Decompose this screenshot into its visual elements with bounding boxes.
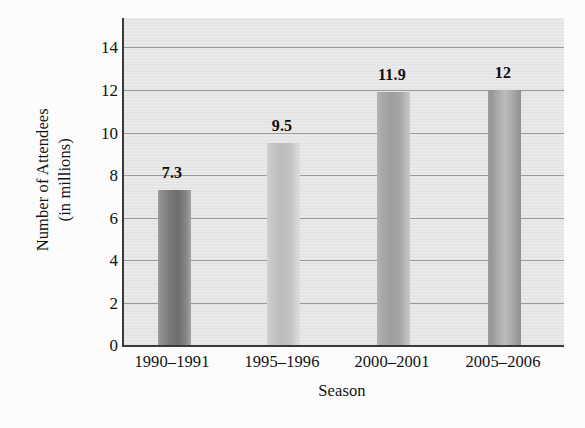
y-tick-12: 12: [84, 82, 118, 99]
x-tick-1995-1996: 1995–1996: [244, 352, 319, 372]
y-tick-10: 10: [84, 125, 118, 142]
y-axis-title-line1: Number of Attendees: [32, 108, 54, 251]
y-axis-title-line2: (in millions): [54, 108, 76, 251]
x-axis-title: Season: [122, 381, 562, 401]
data-label-2005-2006: 12: [495, 64, 511, 82]
data-label-1995-1996: 9.5: [272, 117, 293, 135]
x-tick-2005-2006: 2005–2006: [465, 352, 540, 372]
x-tick-1990-1991: 1990–1991: [134, 352, 209, 372]
y-tick-0: 0: [84, 337, 118, 354]
gridline-14: [124, 47, 564, 48]
y-tick-4: 4: [84, 252, 118, 269]
y-tick-8: 8: [84, 167, 118, 184]
bar-chart: Number of Attendees (in millions) 14 12 …: [0, 0, 585, 428]
data-label-1990-1991: 7.3: [162, 164, 183, 182]
bar-2005-2006: [488, 90, 521, 345]
y-axis-tick-labels: 14 12 10 8 6 4 2 0: [82, 0, 118, 428]
data-label-2000-2001: 11.9: [378, 66, 406, 84]
y-tick-14: 14: [84, 39, 118, 56]
bar-2000-2001: [377, 92, 410, 345]
bar-1995-1996: [267, 143, 300, 345]
x-tick-2000-2001: 2000–2001: [354, 352, 429, 372]
y-tick-2: 2: [84, 295, 118, 312]
y-tick-6: 6: [84, 210, 118, 227]
bar-1990-1991: [158, 190, 191, 345]
